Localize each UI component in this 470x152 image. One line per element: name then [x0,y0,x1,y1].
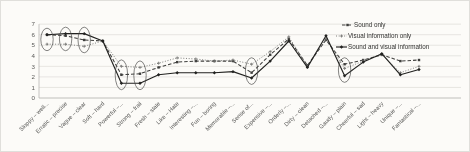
legend-label: Visual information only [348,32,412,40]
svg-text:5: 5 [32,41,36,48]
scanned-line-chart-figure: 01234567Sloppy – well...Erratic – precis… [0,0,470,152]
svg-text:0: 0 [32,94,36,101]
legend-item-sound-only: Sound only [342,21,386,29]
svg-text:7: 7 [32,20,36,27]
svg-text:2: 2 [32,73,36,80]
legend-label: Sound and visual information [348,43,430,50]
legend-item-visual-only: Visual information only [336,32,412,40]
svg-text:4: 4 [32,52,36,59]
legend-item-sound-and-visual: Sound and visual information [336,43,430,50]
legend-line-sample-solid [336,45,347,48]
svg-text:3: 3 [32,63,36,70]
svg-text:6: 6 [32,31,36,38]
legend-label: Sound only [354,21,386,29]
line-chart-canvas: 01234567Sloppy – well...Erratic – precis… [1,1,469,151]
chart-legend: Sound only Visual information only Sound… [336,21,430,50]
svg-text:1: 1 [32,84,36,91]
